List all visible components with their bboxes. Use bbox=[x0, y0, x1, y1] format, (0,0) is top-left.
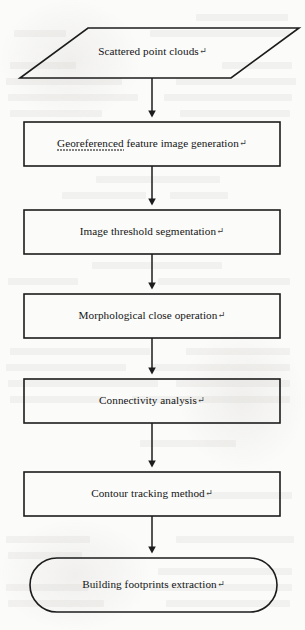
label-text: Contour tracking method bbox=[91, 487, 205, 499]
paragraph-mark: ↵ bbox=[218, 310, 226, 320]
node-image-threshold-segmentation-label: Image threshold segmentation↵ bbox=[24, 225, 280, 237]
node-georeferenced-feature-image-generation-label: Georeferenced feature image generation↵ bbox=[24, 137, 280, 149]
label-text: Morphological close operation bbox=[79, 309, 218, 321]
paragraph-mark: ↵ bbox=[217, 226, 225, 236]
label-text: Connectivity analysis bbox=[99, 394, 197, 406]
node-contour-tracking-method-label: Contour tracking method↵ bbox=[24, 487, 280, 499]
node-morphological-close-operation-label: Morphological close operation↵ bbox=[24, 309, 280, 321]
flowchart-page: Scattered point clouds↵ Georeferenced fe… bbox=[0, 0, 305, 630]
node-connectivity-analysis-label: Connectivity analysis↵ bbox=[24, 394, 280, 406]
label-misspelled-word: Georeferenced bbox=[57, 137, 123, 150]
paragraph-mark: ↵ bbox=[239, 138, 247, 148]
node-scattered-point-clouds-label: Scattered point clouds↵ bbox=[0, 45, 305, 57]
node-building-footprints-extraction-label: Building footprints extraction↵ bbox=[30, 578, 277, 590]
paragraph-mark: ↵ bbox=[217, 579, 225, 589]
paragraph-mark: ↵ bbox=[199, 46, 207, 56]
paragraph-mark: ↵ bbox=[197, 395, 205, 405]
label-text: Building footprints extraction bbox=[82, 578, 217, 590]
label-text: feature image generation bbox=[124, 137, 239, 149]
paragraph-mark: ↵ bbox=[205, 488, 213, 498]
label-text: Image threshold segmentation bbox=[80, 225, 216, 237]
label-text: Scattered point clouds bbox=[98, 45, 199, 57]
